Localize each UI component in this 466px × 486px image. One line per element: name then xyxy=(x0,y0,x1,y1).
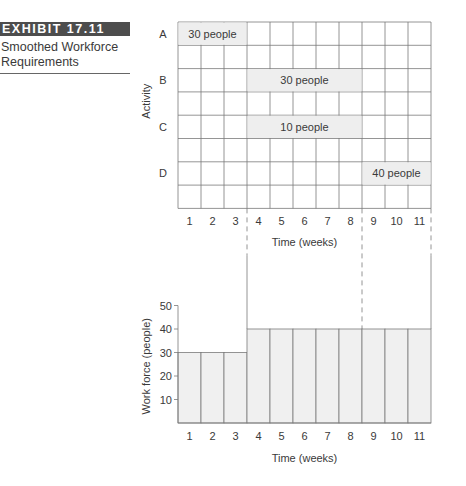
gantt-x-tick: 3 xyxy=(232,215,238,227)
y-tick-label: 50 xyxy=(160,300,172,312)
bar-x-axis-label: Time (weeks) xyxy=(272,452,338,464)
workforce-bar-week-8 xyxy=(339,329,362,423)
bar-x-tick: 11 xyxy=(414,430,425,442)
gantt-x-tick: 4 xyxy=(255,215,261,227)
y-tick-label: 40 xyxy=(160,323,172,335)
workforce-bar-week-4 xyxy=(247,329,270,423)
bar-x-tick: 2 xyxy=(209,430,215,442)
gantt-y-axis-label: Activity xyxy=(140,83,152,118)
y-tick-label: 20 xyxy=(160,370,172,382)
bar-x-tick: 8 xyxy=(347,430,353,442)
gantt-x-tick: 11 xyxy=(414,215,425,227)
activity-name-c: C xyxy=(159,121,167,133)
bar-x-tick: 9 xyxy=(370,430,376,442)
activity-bar-label: 30 people xyxy=(280,74,328,86)
workforce-bar-week-2 xyxy=(201,353,224,424)
y-tick-label: 10 xyxy=(160,394,172,406)
workforce-chart: 30 peopleA30 peopleB10 peopleC40 peopleD… xyxy=(0,0,466,486)
bar-x-tick: 7 xyxy=(324,430,330,442)
workforce-bar-week-1 xyxy=(178,353,201,424)
gantt-x-tick: 1 xyxy=(186,215,192,227)
bar-x-tick: 1 xyxy=(186,430,192,442)
workforce-bar-week-5 xyxy=(270,329,293,423)
gantt-x-tick: 6 xyxy=(301,215,307,227)
gantt-x-tick: 9 xyxy=(370,215,376,227)
activity-name-b: B xyxy=(159,74,166,86)
gantt-x-tick: 8 xyxy=(347,215,353,227)
gantt-x-axis-label: Time (weeks) xyxy=(272,236,338,248)
bar-x-tick: 4 xyxy=(255,430,261,442)
workforce-bar-week-10 xyxy=(385,329,408,423)
bar-x-tick: 3 xyxy=(232,430,238,442)
gantt-x-tick: 10 xyxy=(390,215,402,227)
workforce-bar-week-3 xyxy=(224,353,247,424)
workforce-bar-week-9 xyxy=(362,329,385,423)
bar-x-tick: 6 xyxy=(301,430,307,442)
gantt-x-tick: 5 xyxy=(278,215,284,227)
bar-y-axis-label: Work force (people) xyxy=(140,318,152,414)
workforce-bar-week-6 xyxy=(293,329,316,423)
gantt-x-tick: 7 xyxy=(324,215,330,227)
bar-x-tick: 10 xyxy=(390,430,402,442)
workforce-bar-week-7 xyxy=(316,329,339,423)
y-tick-label: 30 xyxy=(160,347,172,359)
activity-bar-label: 40 people xyxy=(372,167,420,179)
activity-name-a: A xyxy=(159,28,167,40)
workforce-bar-week-11 xyxy=(408,329,431,423)
activity-bar-label: 30 people xyxy=(188,28,236,40)
gantt-x-tick: 2 xyxy=(209,215,215,227)
activity-bar-label: 10 people xyxy=(280,121,328,133)
activity-name-d: D xyxy=(159,167,167,179)
bar-x-tick: 5 xyxy=(278,430,284,442)
